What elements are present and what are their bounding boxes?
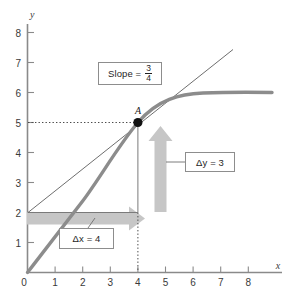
x-tick-label-7: 7 (218, 277, 224, 288)
delta-y-arrow (149, 126, 173, 212)
y-axis-ticks (28, 33, 35, 243)
slope-expression: Slope = 3 4 (108, 64, 152, 83)
y-tick-label-3: 3 (15, 178, 21, 189)
x-tick-label-0: 0 (21, 277, 27, 288)
y-tick-label-1: 1 (15, 238, 21, 249)
x-tick-labels: 0 1 2 3 4 5 6 7 8 (21, 277, 251, 288)
delta-y-label: Δy = 3 (196, 157, 224, 168)
plot-canvas: 8 7 6 5 4 3 2 1 0 1 2 3 4 5 6 7 8 y x (0, 0, 292, 294)
slope-prefix-label: Slope = (108, 68, 141, 79)
y-tick-label-2: 2 (15, 208, 21, 219)
x-tick-label-1: 1 (52, 277, 58, 288)
y-axis-label: y (29, 9, 35, 20)
y-tick-label-4: 4 (15, 148, 21, 159)
graph-figure: 8 7 6 5 4 3 2 1 0 1 2 3 4 5 6 7 8 y x (0, 0, 292, 294)
x-tick-label-5: 5 (163, 277, 169, 288)
y-tick-label-6: 6 (15, 88, 21, 99)
x-tick-label-6: 6 (190, 277, 196, 288)
x-axis-ticks (55, 267, 248, 273)
delta-x-label: Δx = 4 (73, 233, 101, 244)
slope-numerator: 3 (145, 64, 152, 74)
y-tick-label-8: 8 (15, 28, 21, 39)
delta-x-callout-box: Δx = 4 (59, 228, 114, 249)
point-a-label: A (134, 105, 142, 116)
y-tick-labels: 8 7 6 5 4 3 2 1 (15, 28, 21, 249)
x-tick-label-4: 4 (135, 277, 141, 288)
x-tick-label-8: 8 (246, 277, 252, 288)
y-tick-label-7: 7 (15, 58, 21, 69)
slope-denominator: 4 (145, 74, 152, 83)
y-tick-label-5: 5 (15, 118, 21, 129)
x-axis-label: x (275, 260, 281, 271)
slope-callout-box: Slope = 3 4 (98, 62, 162, 85)
x-tick-label-2: 2 (80, 277, 86, 288)
slope-fraction: 3 4 (145, 64, 152, 83)
delta-x-arrow (27, 207, 145, 231)
point-a-marker (133, 118, 142, 127)
x-tick-label-3: 3 (108, 277, 114, 288)
delta-y-callout-box: Δy = 3 (185, 152, 235, 172)
